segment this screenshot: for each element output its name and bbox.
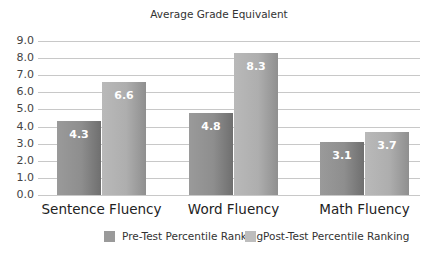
bar-value-label: 4.8 <box>189 120 233 133</box>
y-tick-label: 9.0 <box>4 34 34 47</box>
gridline <box>38 75 420 76</box>
y-tick-label: 8.0 <box>4 51 34 64</box>
gridline <box>38 195 420 196</box>
y-tick-label: 0.0 <box>4 188 34 201</box>
bar-value-label: 8.3 <box>234 60 278 73</box>
chart-title: Average Grade Equivalent <box>0 8 438 20</box>
gridline <box>38 58 420 59</box>
legend-item-pre-test: Pre-Test Percentile Ranking <box>104 230 263 242</box>
y-tick-label: 5.0 <box>4 102 34 115</box>
legend: Pre-Test Percentile Ranking Post-Test Pe… <box>0 230 438 250</box>
bar-post-test-word-fluency: 8.3 <box>234 53 278 195</box>
legend-label-pre-test: Pre-Test Percentile Ranking <box>122 230 263 242</box>
bar-post-test-sentence-fluency: 6.6 <box>102 82 146 195</box>
y-tick-label: 6.0 <box>4 85 34 98</box>
gridline <box>38 109 420 110</box>
x-category-label: Sentence Fluency <box>32 201 172 217</box>
legend-item-post-test: Post-Test Percentile Ranking <box>245 230 409 242</box>
x-category-label: Math Fluency <box>295 201 435 217</box>
bar-value-label: 3.7 <box>365 139 409 152</box>
bar-pre-test-word-fluency: 4.8 <box>189 113 233 195</box>
bar-pre-test-sentence-fluency: 4.3 <box>57 121 101 195</box>
bar-post-test-math-fluency: 3.7 <box>365 132 409 195</box>
x-category-label: Word Fluency <box>164 201 304 217</box>
y-tick-label: 3.0 <box>4 137 34 150</box>
gridline <box>38 41 420 42</box>
bar-pre-test-math-fluency: 3.1 <box>320 142 364 195</box>
legend-swatch-post-test <box>245 231 256 242</box>
gridline <box>38 92 420 93</box>
bar-value-label: 6.6 <box>102 89 146 102</box>
bar-value-label: 4.3 <box>57 128 101 141</box>
legend-label-post-test: Post-Test Percentile Ranking <box>263 230 409 242</box>
y-tick-label: 4.0 <box>4 120 34 133</box>
bar-value-label: 3.1 <box>320 149 364 162</box>
y-tick-label: 2.0 <box>4 154 34 167</box>
y-tick-label: 7.0 <box>4 68 34 81</box>
legend-swatch-pre-test <box>104 231 115 242</box>
bar-chart: Average Grade Equivalent 0.01.02.03.04.0… <box>0 0 438 264</box>
y-tick-label: 1.0 <box>4 171 34 184</box>
